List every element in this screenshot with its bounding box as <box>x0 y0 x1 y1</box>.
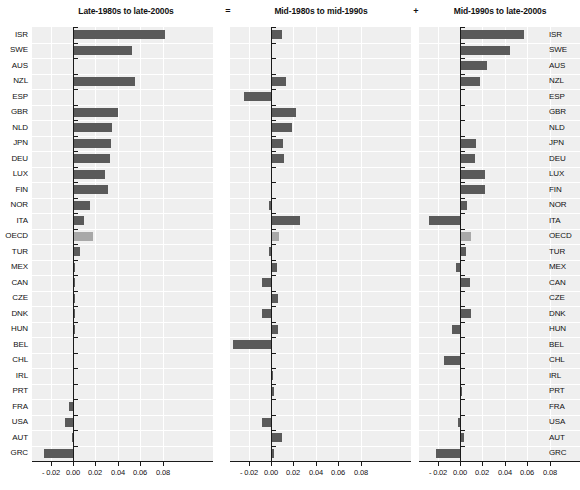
country-label-right-prt: PRT <box>549 386 580 395</box>
horizontal-gridline <box>419 384 580 385</box>
horizontal-gridline <box>230 430 411 431</box>
y-axis-tick <box>272 74 276 75</box>
x-axis-tick <box>338 462 339 466</box>
country-label-right-ita: ITA <box>549 216 580 225</box>
y-axis-tick <box>272 415 276 416</box>
vertical-gridline <box>482 27 483 461</box>
y-axis-tick <box>272 58 276 59</box>
y-axis-tick <box>74 213 78 214</box>
country-label-right-gbr: GBR <box>549 107 580 116</box>
y-axis-tick <box>74 306 78 307</box>
x-axis-tick <box>316 462 317 466</box>
country-label-right-aus: AUS <box>549 61 580 70</box>
bar-oecd <box>73 232 93 241</box>
country-label-left-fra: FRA <box>0 402 28 411</box>
horizontal-gridline <box>32 120 213 121</box>
x-axis-tick-label: 0.02 <box>88 468 102 477</box>
x-axis-tick <box>482 462 483 466</box>
y-axis-tick <box>74 415 78 416</box>
bar-fin <box>73 185 108 194</box>
horizontal-gridline <box>32 306 213 307</box>
y-axis-tick <box>461 182 465 183</box>
y-axis-tick <box>461 74 465 75</box>
horizontal-gridline <box>419 182 580 183</box>
vertical-gridline <box>95 27 96 461</box>
horizontal-gridline <box>32 213 213 214</box>
bar-usa <box>262 418 271 427</box>
bar-tur <box>73 247 80 256</box>
x-axis-tick <box>51 462 52 466</box>
y-axis-tick <box>272 198 276 199</box>
vertical-gridline <box>118 27 119 461</box>
vertical-gridline <box>51 27 52 461</box>
country-label-left-chl: CHL <box>0 355 28 364</box>
y-axis-tick <box>461 446 465 447</box>
y-axis-tick <box>272 353 276 354</box>
y-axis-tick <box>74 322 78 323</box>
bar-swe <box>460 46 510 55</box>
y-axis-tick <box>461 322 465 323</box>
horizontal-gridline <box>230 244 411 245</box>
country-label-left-oecd: OECD <box>0 231 28 240</box>
bar-fin <box>460 185 485 194</box>
x-axis-tick-label: 0.02 <box>475 468 489 477</box>
bar-nor <box>73 201 90 210</box>
country-label-left-swe: SWE <box>0 45 28 54</box>
y-axis-tick <box>74 353 78 354</box>
vertical-gridline <box>527 27 528 461</box>
horizontal-gridline <box>419 136 580 137</box>
country-label-right-nzl: NZL <box>549 76 580 85</box>
y-axis-tick <box>461 430 465 431</box>
y-axis-tick <box>461 384 465 385</box>
country-label-right-fra: FRA <box>549 402 580 411</box>
y-axis-tick <box>272 275 276 276</box>
x-axis-tick <box>293 462 294 466</box>
y-axis-tick <box>74 151 78 152</box>
horizontal-gridline <box>230 306 411 307</box>
horizontal-gridline <box>230 229 411 230</box>
country-label-right-bel: BEL <box>549 340 580 349</box>
y-axis-tick <box>272 27 276 28</box>
horizontal-gridline <box>419 399 580 400</box>
horizontal-gridline <box>419 275 580 276</box>
x-axis-tick-label: - 0.02 <box>240 468 258 477</box>
y-axis-tick <box>74 368 78 369</box>
y-axis-tick <box>74 89 78 90</box>
y-axis-tick <box>74 27 78 28</box>
y-axis-tick <box>272 260 276 261</box>
x-axis-tick-label: 0.00 <box>264 468 278 477</box>
country-label-left-grc: GRC <box>0 448 28 457</box>
country-label-left-aus: AUS <box>0 61 28 70</box>
bar-nzl <box>460 77 480 86</box>
country-label-right-hun: HUN <box>549 324 580 333</box>
country-label-right-chl: CHL <box>549 355 580 364</box>
horizontal-gridline <box>230 275 411 276</box>
country-label-left-deu: DEU <box>0 154 28 163</box>
horizontal-gridline <box>230 43 411 44</box>
bar-nzl <box>73 77 135 86</box>
horizontal-gridline <box>230 198 411 199</box>
bar-bel <box>233 340 271 349</box>
country-label-left-jpn: JPN <box>0 138 28 147</box>
country-label-right-isr: ISR <box>549 30 580 39</box>
country-label-right-oecd: OECD <box>549 231 580 240</box>
y-axis-tick <box>461 306 465 307</box>
y-axis-tick <box>461 105 465 106</box>
horizontal-gridline <box>419 368 580 369</box>
country-label-right-swe: SWE <box>549 45 580 54</box>
x-axis-line <box>230 461 411 462</box>
y-axis-tick <box>272 430 276 431</box>
y-axis-tick <box>272 167 276 168</box>
horizontal-gridline <box>230 415 411 416</box>
bar-grc <box>44 449 73 458</box>
x-axis-tick <box>140 462 141 466</box>
country-label-right-lux: LUX <box>549 169 580 178</box>
horizontal-gridline <box>230 89 411 90</box>
country-label-left-aut: AUT <box>0 433 28 442</box>
bar-dnk <box>460 309 471 318</box>
y-axis-tick <box>272 151 276 152</box>
bar-nzl <box>271 77 286 86</box>
horizontal-gridline <box>230 337 411 338</box>
horizontal-gridline <box>230 58 411 59</box>
figure-root: Late-1980s to late-2000s = Mid-1980s to … <box>0 0 580 490</box>
